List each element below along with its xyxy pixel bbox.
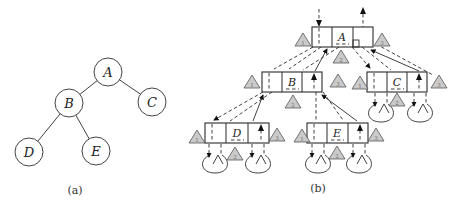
visit-marker-d-right: 3 [269,128,285,141]
visit-marker-d-left: 1 [189,130,205,143]
node-box-e-label: E [332,127,341,140]
panel-b: A B C [189,7,447,195]
visit-marker-e-right: 3 [368,128,384,141]
node-box-b: B [262,72,322,92]
empty-subtree-loop-d-right [246,144,271,173]
caption-a: (a) [67,184,82,197]
caption-b: (b) [310,182,326,195]
node-box-a-label: A [337,31,346,44]
visit-marker-c-mid: 2 [389,93,405,106]
tree-node-a: A [94,58,122,86]
visit-marker-c-left: 1 [352,76,368,89]
visit-marker-d-right-num: 3 [275,135,279,141]
enter-arrow-icon [316,20,322,27]
node-box-d: D [205,123,269,143]
visit-marker-d-left-num: 1 [195,137,199,143]
node-box-b-label: B [287,76,296,89]
tree-node-b-label: B [63,96,74,111]
figure-tree-traversal: A B C D E (a) [0,0,453,205]
visit-marker-e-right-num: 3 [374,135,378,141]
tree-node-b: B [55,89,83,117]
panel-a: A B C D E (a) [15,58,166,197]
visit-marker-b-left-num: 1 [250,82,254,88]
visit-marker-a-left: 1 [295,33,311,46]
visit-marker-c-mid-num: 2 [395,100,399,106]
traversal-edges-b-d [214,92,272,121]
empty-subtree-loop-c-left [369,93,394,122]
tree-node-a-label: A [102,65,112,80]
visit-marker-b-left: 1 [244,75,260,88]
visit-marker-b-mid: 2 [285,95,301,108]
tree-node-e-label: E [90,144,101,159]
tree-node-c: C [138,88,166,116]
node-box-e: E [307,123,368,143]
visit-marker-e-mid-num: 2 [335,153,339,159]
tree-node-d: D [15,138,43,166]
visit-marker-c-left-num: 1 [358,83,362,89]
visit-marker-c-right: 3 [431,75,447,88]
traversal-edges-a-c [352,44,433,75]
visit-marker-e-left-num: 1 [300,136,304,142]
empty-subtree-loop-d-left [203,144,228,173]
node-box-c: C [367,72,427,92]
node-box-d-label: D [232,127,242,140]
tree-node-e: E [82,137,110,165]
node-box-c-label: C [393,76,402,89]
empty-subtree-loop-e-left [306,144,331,173]
empty-subtree-loop-c-right [408,93,433,122]
traversal-edges-b-e [316,92,357,121]
figure-canvas: A B C D E (a) [0,0,453,205]
exit-arrow-icon [360,7,366,14]
tree-node-d-label: D [23,145,35,160]
visit-marker-d-mid: 2 [227,147,243,160]
visit-marker-e-mid: 2 [329,146,345,159]
visit-marker-a-right-num: 3 [380,40,384,46]
traversal-edges-a-b [274,47,339,71]
visit-marker-d-mid-num: 2 [233,154,237,160]
tree-node-c-label: C [147,95,157,110]
visit-marker-b-right-num: 3 [336,81,340,87]
visit-marker-b-right: 3 [330,74,346,87]
visit-marker-c-right-num: 3 [437,82,441,88]
visit-marker-a-right: 3 [374,33,390,46]
node-box-a: A [312,7,373,47]
visit-marker-b-mid-num: 2 [291,102,295,108]
visit-marker-a-mid: 2 [333,50,349,63]
empty-subtree-loop-e-right [347,144,372,173]
visit-marker-a-mid-num: 2 [339,57,343,63]
visit-marker-a-left-num: 1 [301,40,305,46]
